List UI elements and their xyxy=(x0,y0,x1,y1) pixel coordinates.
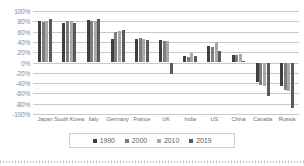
bar xyxy=(122,30,125,63)
bar xyxy=(114,32,117,63)
bar xyxy=(49,19,52,63)
bar-group xyxy=(38,0,52,132)
bar-group xyxy=(280,0,294,132)
bar xyxy=(187,57,190,63)
bar-group xyxy=(256,0,270,132)
bar xyxy=(142,39,145,63)
y-axis-tick-label: 0% xyxy=(21,59,30,66)
bar xyxy=(87,20,90,62)
bar xyxy=(70,21,73,62)
bar xyxy=(235,55,238,63)
x-axis-tick-label: South Korea xyxy=(54,116,84,122)
y-axis-tick-label: -100% xyxy=(12,111,30,118)
legend-item-label: 2010 xyxy=(164,137,179,144)
y-axis-tick-label: 20% xyxy=(18,49,30,56)
bar xyxy=(259,63,262,86)
bar xyxy=(45,21,48,62)
bar xyxy=(90,21,93,62)
bar xyxy=(239,54,242,62)
bar xyxy=(284,63,287,91)
legend-item[interactable]: 2019 xyxy=(189,137,211,144)
x-axis-tick-label: US xyxy=(211,116,219,122)
bar xyxy=(139,38,142,62)
bar xyxy=(287,63,290,92)
bottom-dotted-divider xyxy=(0,161,304,163)
bar xyxy=(218,51,221,62)
bar xyxy=(62,23,65,62)
bar xyxy=(211,47,214,62)
bar xyxy=(267,63,270,97)
x-axis-tick-label: France xyxy=(133,116,150,122)
y-axis-tick-label: 100% xyxy=(14,8,30,15)
x-axis-labels: JapanSouth KoreaItalyGermanyFranceUKIndi… xyxy=(33,114,299,132)
x-axis-tick-label: Russia xyxy=(279,116,296,122)
legend-swatch-icon xyxy=(125,139,129,143)
bar xyxy=(190,53,193,62)
bar xyxy=(111,39,114,63)
y-axis: 100%80%60%40%20%0%-20%-40%-60%-80%-100% xyxy=(0,0,33,132)
bar-group xyxy=(87,0,101,132)
bar xyxy=(146,40,149,63)
bar xyxy=(263,63,266,87)
x-axis-tick-label: Canada xyxy=(253,116,272,122)
bar xyxy=(207,46,210,62)
legend-item-label: 2019 xyxy=(196,137,211,144)
y-axis-tick-label: -60% xyxy=(16,90,30,97)
bar xyxy=(118,31,121,62)
legend-swatch-icon xyxy=(157,139,161,143)
bar xyxy=(291,63,294,108)
legend-item-label: 1990 xyxy=(100,137,115,144)
bar-group xyxy=(111,0,125,132)
y-axis-tick-label: -80% xyxy=(16,100,30,107)
x-axis-tick-label: Italy xyxy=(89,116,99,122)
bar xyxy=(97,19,100,62)
legend-item[interactable]: 1990 xyxy=(93,137,115,144)
legend-swatch-icon xyxy=(189,139,193,143)
bar xyxy=(42,22,45,62)
bar xyxy=(135,39,138,63)
bars-layer xyxy=(33,0,299,132)
bar xyxy=(159,40,162,63)
bar xyxy=(94,21,97,63)
bar xyxy=(183,56,186,63)
bar-chart: 100%80%60%40%20%0%-20%-40%-60%-80%-100% … xyxy=(0,0,304,166)
legend-item[interactable]: 2000 xyxy=(125,137,147,144)
bar xyxy=(73,23,76,62)
chart-legend: 1990200020102019 xyxy=(69,133,235,148)
bar-group xyxy=(159,0,173,132)
x-axis-tick-label: India xyxy=(184,116,196,122)
bar xyxy=(66,21,69,62)
plot-area: 100%80%60%40%20%0%-20%-40%-60%-80%-100% … xyxy=(0,0,304,132)
y-axis-tick-label: -40% xyxy=(16,80,30,87)
y-axis-tick-label: 80% xyxy=(18,18,30,25)
bar xyxy=(232,55,235,62)
bar xyxy=(166,41,169,63)
bar xyxy=(215,42,218,63)
bar-group xyxy=(207,0,221,132)
x-axis-tick-label: Japan xyxy=(38,116,53,122)
legend-item-label: 2000 xyxy=(132,137,147,144)
bar xyxy=(194,56,197,63)
bar xyxy=(163,41,166,63)
bar-group xyxy=(62,0,76,132)
x-axis-tick-label: UK xyxy=(162,116,170,122)
bar-group xyxy=(135,0,149,132)
y-axis-tick-label: -20% xyxy=(16,69,30,76)
legend-item[interactable]: 2010 xyxy=(157,137,179,144)
x-axis-tick-label: China xyxy=(231,116,245,122)
bar-group xyxy=(232,0,246,132)
legend-swatch-icon xyxy=(93,139,97,143)
bar-group xyxy=(183,0,197,132)
bar xyxy=(256,63,259,83)
bar xyxy=(242,61,245,63)
bar xyxy=(170,63,173,74)
bar xyxy=(280,63,283,87)
bar xyxy=(38,21,41,62)
y-axis-tick-label: 60% xyxy=(18,28,30,35)
y-axis-tick-label: 40% xyxy=(18,38,30,45)
x-axis-tick-label: Germany xyxy=(106,116,128,122)
